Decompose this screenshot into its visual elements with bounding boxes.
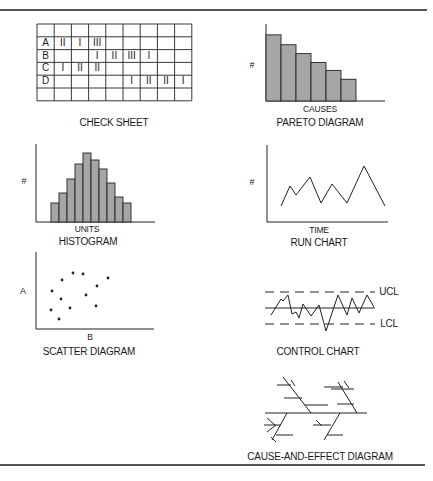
- histogram-title: HISTOGRAM: [59, 236, 118, 247]
- scatter-xlabel: B: [87, 332, 92, 342]
- ucl-label: UCL: [379, 286, 398, 297]
- check-sheet-title: CHECK SHEET: [80, 117, 149, 128]
- histogram-ylabel: #: [22, 176, 27, 186]
- scatter-title: SCATTER DIAGRAM: [43, 346, 135, 357]
- histogram-xlabel: UNITS: [75, 224, 100, 234]
- pareto-xlabel: CAUSES: [303, 104, 337, 114]
- check-sheet-tally: II: [157, 75, 174, 88]
- check-sheet-tally: III: [123, 50, 140, 63]
- check-sheet-tally: II: [54, 37, 71, 50]
- scatter-chart: [36, 252, 154, 329]
- pareto-chart: [266, 24, 385, 101]
- check-sheet-row-label: B: [37, 50, 54, 63]
- histogram-chart: [36, 144, 155, 222]
- check-sheet-tally: I: [89, 50, 106, 63]
- run-chart-ylabel: #: [250, 177, 255, 187]
- pareto-title: PARETO DIAGRAM: [277, 117, 364, 128]
- check-sheet-row-label: A: [37, 37, 54, 50]
- check-sheet-tally: I: [71, 37, 88, 50]
- check-sheet-tally: I: [123, 75, 140, 88]
- check-sheet-tally: I: [54, 62, 71, 75]
- run-chart-xlabel: TIME: [309, 225, 329, 235]
- check-sheet-tally: I: [175, 75, 192, 88]
- pareto-ylabel: #: [250, 60, 255, 70]
- run-chart-title: RUN CHART: [291, 237, 348, 248]
- run-chart: [267, 145, 388, 222]
- scatter-ylabel: A: [20, 286, 26, 296]
- lcl-label: LCL: [380, 318, 398, 329]
- check-sheet-row-label: D: [37, 75, 54, 88]
- check-sheet-tally: II: [89, 62, 106, 75]
- check-sheet-tally: I: [140, 50, 157, 63]
- control-chart: [265, 292, 375, 331]
- control-chart-title: CONTROL CHART: [277, 346, 360, 357]
- check-sheet-tally: II: [106, 50, 123, 63]
- cause-effect-title: CAUSE-AND-EFFECT DIAGRAM: [247, 451, 393, 462]
- check-sheet-row-label: C: [37, 62, 54, 75]
- check-sheet-tally: II: [140, 75, 157, 88]
- check-sheet-tally: II: [71, 62, 88, 75]
- check-sheet-tally: III: [89, 37, 106, 50]
- fishbone-diagram: [264, 377, 367, 442]
